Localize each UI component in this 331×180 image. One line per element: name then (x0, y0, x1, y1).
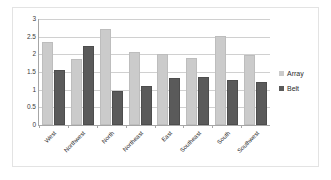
bar-belt (141, 86, 152, 125)
x-axis-label-cell: East (154, 127, 183, 165)
legend-item[interactable]: Belt (279, 85, 319, 92)
legend-label: Array (287, 70, 304, 77)
x-axis-label: Northeast (121, 130, 144, 153)
x-axis-label-cell: Northwest (67, 127, 96, 165)
bar-group (241, 19, 270, 125)
y-axis-tick-label: 1.5 (14, 69, 36, 76)
y-axis-tick-labels: 32.521.510.50 (13, 19, 36, 125)
legend-label: Belt (287, 85, 299, 92)
legend-swatch-belt-icon (279, 86, 284, 91)
x-axis-label-cell: South (212, 127, 241, 165)
chart-legend: ArrayBelt (279, 70, 319, 100)
x-axis-label-cell: Northeast (125, 127, 154, 165)
x-axis-label-cell: West (38, 127, 67, 165)
legend-item[interactable]: Array (279, 70, 319, 77)
x-axis-label-cell: Southeast (183, 127, 212, 165)
bar-group (155, 19, 184, 125)
plot-area (38, 19, 270, 125)
bar-belt (256, 82, 267, 125)
bar-group (39, 19, 68, 125)
y-axis-tick-label: 3 (14, 16, 36, 23)
x-axis-label: West (43, 130, 57, 144)
x-axis-category-labels: WestNorthwestNorthNortheastEastSoutheast… (38, 127, 270, 165)
x-axis-label: North (100, 130, 115, 145)
legend-swatch-array-icon (279, 71, 284, 76)
bar-group (212, 19, 241, 125)
x-axis-label: South (215, 130, 230, 145)
bar-belt (83, 46, 94, 125)
bar-group (183, 19, 212, 125)
x-axis-label: East (160, 130, 173, 143)
y-axis-tick-label: 2.5 (14, 33, 36, 40)
bar-array (157, 54, 168, 125)
y-axis-tick-label: 1 (14, 86, 36, 93)
bar-belt (169, 78, 180, 125)
bar-array (42, 42, 53, 125)
bar-group (126, 19, 155, 125)
bar-belt (227, 80, 238, 125)
y-axis-tick-label: 0.5 (14, 104, 36, 111)
y-axis-tick-label: 2 (14, 51, 36, 58)
bar-array (215, 36, 226, 125)
bar-group (68, 19, 97, 125)
bar-array (244, 55, 255, 125)
x-axis-label-cell: North (96, 127, 125, 165)
bar-belt (54, 70, 65, 125)
bar-array (100, 29, 111, 125)
chart-container: 32.521.510.50 WestNorthwestNorthNortheas… (12, 7, 319, 167)
y-axis-tick-label: 0 (14, 122, 36, 129)
x-axis-label-cell: Southwest (241, 127, 270, 165)
bar-array (71, 59, 82, 125)
bar-group (97, 19, 126, 125)
bar-array (186, 58, 197, 125)
bar-array (129, 52, 140, 125)
bar-belt (198, 77, 209, 125)
bar-groups (39, 19, 270, 125)
bar-belt (112, 91, 123, 125)
